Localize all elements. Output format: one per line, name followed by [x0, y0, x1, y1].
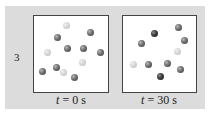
molecule-sphere-icon: [63, 22, 70, 29]
molecule-sphere-icon: [175, 24, 182, 31]
molecule-sphere-icon: [71, 74, 78, 81]
molecule-sphere-icon: [39, 68, 46, 75]
caption-t0: t = 0 s: [31, 93, 111, 108]
molecule-sphere-icon: [87, 29, 94, 36]
molecule-sphere-icon: [151, 30, 158, 37]
molecule-sphere-icon: [177, 66, 184, 73]
molecule-sphere-icon: [174, 48, 181, 55]
molecule-sphere-icon: [79, 59, 86, 66]
molecule-sphere-icon: [97, 49, 104, 56]
molecule-sphere-icon: [138, 40, 145, 47]
caption-t30: t = 30 s: [119, 93, 199, 108]
molecule-sphere-icon: [157, 73, 164, 80]
row-label: 3: [14, 51, 20, 63]
molecule-sphere-icon: [60, 69, 67, 76]
molecule-sphere-icon: [64, 45, 71, 52]
box-t30: [122, 15, 197, 93]
molecule-sphere-icon: [145, 61, 152, 68]
molecule-sphere-icon: [130, 61, 137, 68]
molecule-sphere-icon: [80, 45, 87, 52]
molecule-sphere-icon: [54, 34, 61, 41]
molecule-sphere-icon: [53, 64, 60, 71]
figure: 3 t = 0 s t = 30 s: [0, 0, 212, 113]
caption-t30-text: = 30 s: [144, 93, 176, 107]
caption-t0-text: = 0 s: [59, 93, 85, 107]
molecule-sphere-icon: [181, 37, 188, 44]
molecule-sphere-icon: [164, 60, 171, 67]
molecule-sphere-icon: [44, 49, 51, 56]
